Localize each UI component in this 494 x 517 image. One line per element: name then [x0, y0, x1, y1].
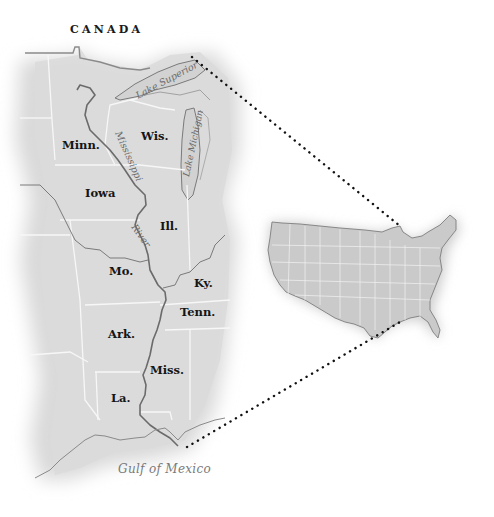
state-label-ill: Ill. — [160, 221, 178, 233]
map-graphic: Lake Superior Lake Michigan Mississippi … — [0, 0, 494, 517]
state-label-tenn: Tenn. — [180, 307, 215, 319]
state-label-mo: Mo. — [109, 266, 133, 278]
us-locator-map — [268, 215, 460, 340]
state-label-minn: Minn. — [62, 140, 100, 152]
state-label-miss: Miss. — [150, 365, 184, 377]
map-figure: Lake Superior Lake Michigan Mississippi … — [0, 0, 494, 517]
state-label-ky: Ky. — [194, 278, 213, 290]
canada-label: CANADA — [70, 24, 143, 35]
state-label-wis: Wis. — [141, 131, 169, 143]
state-label-la: La. — [111, 393, 131, 405]
state-label-iowa: Iowa — [85, 188, 115, 200]
state-label-ark: Ark. — [108, 329, 135, 341]
us-outline — [268, 215, 456, 338]
gulf-of-mexico-label: Gulf of Mexico — [118, 463, 211, 475]
